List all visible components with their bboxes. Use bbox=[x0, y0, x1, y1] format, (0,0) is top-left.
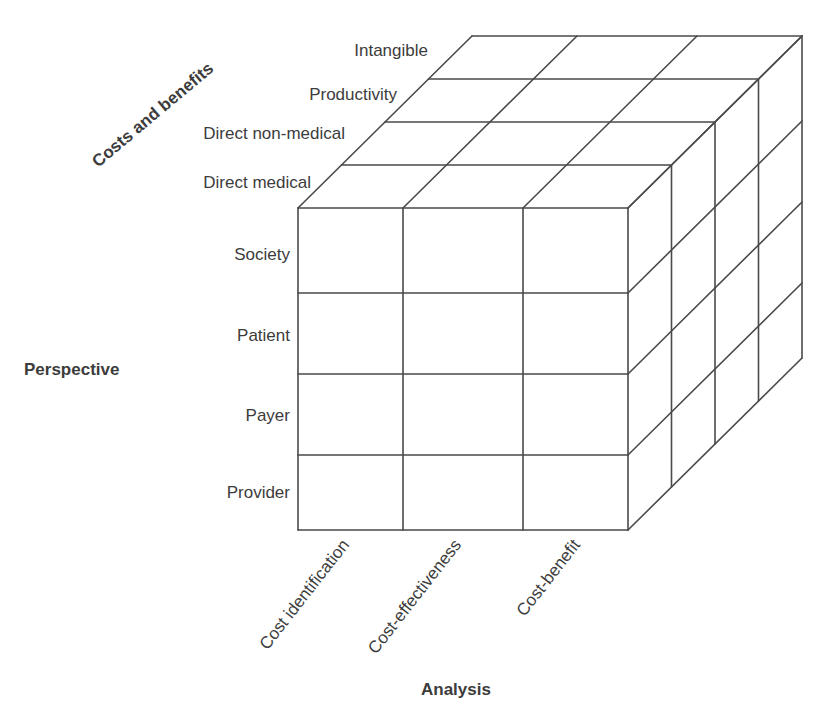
axis-title-analysis: Analysis bbox=[421, 680, 491, 699]
label-cost-benefit: Cost-benefit bbox=[513, 536, 585, 620]
label-society: Society bbox=[234, 245, 290, 264]
label-intangible: Intangible bbox=[354, 41, 428, 60]
cube-grid bbox=[298, 36, 802, 530]
cost-cube-diagram: Costs and benefits Perspective Analysis … bbox=[0, 0, 832, 726]
label-direct-medical: Direct medical bbox=[203, 173, 311, 192]
label-productivity: Productivity bbox=[309, 85, 397, 104]
label-cost-effectiveness: Cost-effectiveness bbox=[364, 536, 465, 658]
axis-title-perspective: Perspective bbox=[24, 360, 119, 379]
label-provider: Provider bbox=[227, 483, 291, 502]
label-payer: Payer bbox=[246, 406, 291, 425]
label-direct-non-medical: Direct non-medical bbox=[203, 124, 345, 143]
label-cost-identification: Cost identification bbox=[256, 536, 354, 653]
label-patient: Patient bbox=[237, 326, 290, 345]
axis-title-costs-and-benefits: Costs and benefits bbox=[88, 59, 217, 171]
